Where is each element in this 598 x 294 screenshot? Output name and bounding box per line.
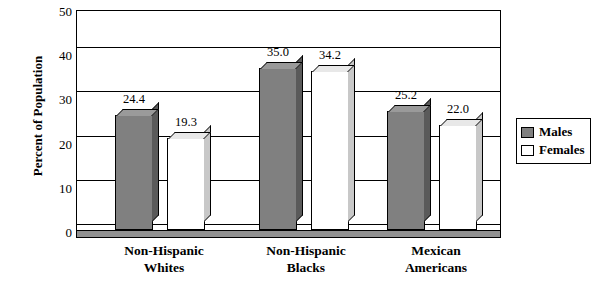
x-axis-labels: Non-Hispanic Whites Non-Hispanic Blacks …	[76, 242, 501, 288]
x-label-line-2: Whites	[84, 259, 244, 276]
plot-area: 24.4 19.3 35.0 34.2	[76, 10, 501, 238]
bar-side-shading	[204, 125, 211, 222]
legend: Males Females	[516, 118, 591, 164]
y-tick-10: 10	[32, 181, 72, 197]
bar-group-non-hispanic-whites: 24.4 19.3	[115, 11, 235, 237]
bar-group-non-hispanic-blacks: 35.0 34.2	[259, 11, 379, 237]
bar-top-shading	[440, 119, 483, 126]
bar-chart: Percent of Population 50 40 30 20 10 0 2…	[0, 0, 598, 294]
bar-side-shading	[348, 58, 355, 222]
y-tick-0: 0	[32, 225, 72, 241]
y-tick-20: 20	[32, 137, 72, 153]
baseline-slab	[77, 230, 500, 237]
bar-group-mexican-americans: 25.2 22.0	[387, 11, 507, 237]
x-label-non-hispanic-whites: Non-Hispanic Whites	[84, 242, 244, 276]
bar-top-shading	[116, 109, 159, 116]
bar-females-mexican-americans[interactable]	[439, 125, 477, 230]
bar-value-males-mexican-americans: 25.2	[376, 88, 436, 103]
bar-top-shading	[260, 62, 303, 69]
bar-value-females-non-hispanic-blacks: 34.2	[300, 48, 360, 63]
legend-label-females: Females	[539, 142, 584, 158]
legend-item-males[interactable]: Males	[521, 123, 584, 141]
legend-label-males: Males	[539, 124, 572, 140]
bar-top-shading	[168, 132, 211, 139]
legend-swatch-males	[521, 127, 534, 138]
y-tick-40: 40	[32, 48, 72, 64]
bar-top-shading	[312, 65, 355, 72]
legend-swatch-females	[521, 145, 534, 156]
legend-item-females[interactable]: Females	[521, 141, 584, 159]
x-label-line-2: Americans	[356, 259, 516, 276]
bar-side-shading	[476, 112, 483, 222]
bar-males-non-hispanic-blacks[interactable]	[259, 68, 297, 230]
bar-value-males-non-hispanic-blacks: 35.0	[248, 45, 308, 60]
bar-side-shading	[296, 55, 303, 222]
bar-value-females-mexican-americans: 22.0	[428, 102, 488, 117]
bar-females-non-hispanic-blacks[interactable]	[311, 71, 349, 230]
bar-value-males-non-hispanic-whites: 24.4	[104, 92, 164, 107]
x-label-line-1: Non-Hispanic	[84, 242, 244, 259]
bar-top-shading	[388, 105, 431, 112]
x-label-line-1: Mexican	[356, 242, 516, 259]
y-tick-50: 50	[32, 4, 72, 20]
bar-males-mexican-americans[interactable]	[387, 111, 425, 230]
bar-females-non-hispanic-whites[interactable]	[167, 138, 205, 230]
y-tick-30: 30	[32, 92, 72, 108]
x-label-mexican-americans: Mexican Americans	[356, 242, 516, 276]
bar-males-non-hispanic-whites[interactable]	[115, 115, 153, 230]
bar-value-females-non-hispanic-whites: 19.3	[156, 115, 216, 130]
y-axis-tick-labels: 50 40 30 20 10 0	[28, 10, 72, 238]
